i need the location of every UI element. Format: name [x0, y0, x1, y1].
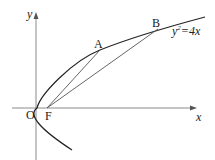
equation-label: y2=4x [171, 24, 201, 38]
point-F-label: F [45, 109, 52, 123]
x-axis [12, 106, 197, 111]
y-axis-arrow-icon [34, 12, 39, 19]
point-A-label: A [94, 37, 103, 51]
parabola-diagram: y x O F A B y2=4x [0, 0, 215, 160]
segment-FA [47, 50, 100, 108]
point-B-label: B [152, 16, 160, 30]
y-axis-label: y [26, 7, 33, 21]
y-axis [34, 12, 39, 160]
x-axis-label: x [195, 110, 202, 124]
origin-label: O [26, 108, 35, 122]
equation-rest: =4x [181, 24, 201, 38]
parabola-curve [34, 17, 205, 150]
